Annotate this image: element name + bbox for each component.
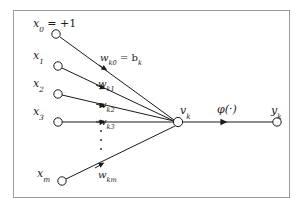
input-label-x3: x3 [33, 106, 44, 117]
input-node-x2[interactable] [54, 90, 62, 98]
vertical-ellipsis [100, 130, 102, 150]
weight-label-wk3: wk3 [98, 117, 115, 127]
weight-label-wk1: wk1 [98, 79, 115, 89]
input-node-x0[interactable] [52, 30, 60, 38]
synapse-line-wkm [66, 126, 175, 179]
weight-label-wk2: wk2 [98, 100, 115, 110]
diagram-root: x0 = +1 x1 x2 x3 xm wk0 = bk wk1 wk2 wk3… [0, 0, 305, 214]
input-label-xm: xm [37, 168, 50, 179]
input-label-x1: x1 [33, 50, 44, 61]
output-label-yk: yk [271, 105, 282, 116]
input-label-x0: x0 = +1 [33, 18, 76, 29]
synapse-line-wk1 [62, 68, 174, 121]
activation-function-label: φ(·) [217, 104, 237, 115]
weight-label-wkm: wkm [98, 170, 117, 180]
summing-junction-label: vk [180, 105, 191, 116]
input-label-x2: x2 [33, 78, 44, 89]
summing-junction-node[interactable] [173, 117, 182, 126]
weight-label-wk0: wk0 = bk [100, 53, 142, 63]
weight-marker-wk0 [99, 65, 105, 69]
input-node-x3[interactable] [54, 118, 62, 126]
input-node-x1[interactable] [54, 62, 62, 70]
input-node-xm[interactable] [58, 177, 66, 185]
